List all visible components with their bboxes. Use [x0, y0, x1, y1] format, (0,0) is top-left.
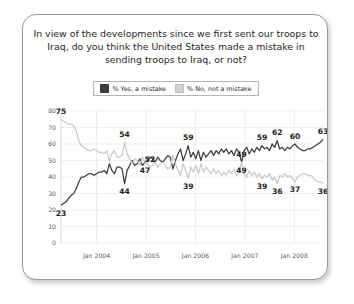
legend-swatch-yes-icon: [100, 84, 109, 93]
x-axis-tick-label: Jan 2004: [82, 252, 110, 260]
data-point-label: 60: [290, 132, 301, 141]
y-axis-tick-label: 50: [48, 157, 56, 164]
data-point-label: 62: [272, 128, 283, 137]
data-point-label: 37: [290, 185, 301, 194]
series-line-yes: [61, 139, 323, 205]
y-axis-tick-label: 70: [48, 124, 56, 131]
chart-title: In view of the developments since we fir…: [33, 27, 319, 67]
data-point-label: 59: [257, 133, 268, 142]
chart-legend: % Yes, a mistake % No, not a mistake: [93, 81, 259, 96]
legend-item-yes: % Yes, a mistake: [100, 84, 166, 93]
data-point-label: 52: [145, 155, 156, 164]
line-chart: 01020304050607080Jan 2004Jan 2005Jan 200…: [23, 103, 327, 279]
data-point-label: 63: [318, 127, 327, 136]
y-axis-tick-label: 0: [52, 239, 56, 246]
data-point-label: 47: [140, 166, 151, 175]
series-line-no: [61, 119, 323, 183]
data-point-label: 36: [318, 187, 327, 196]
legend-label-yes: % Yes, a mistake: [112, 85, 166, 93]
chart-card: In view of the developments since we fir…: [22, 14, 328, 280]
x-axis-tick-label: Jan 2007: [230, 252, 258, 260]
x-axis-tick-label: Jan 2006: [181, 252, 209, 260]
data-point-label: 49: [236, 150, 247, 159]
legend-swatch-no-icon: [175, 84, 184, 93]
x-axis-tick-label: Jan 2008: [280, 252, 308, 260]
y-axis-tick-label: 40: [48, 173, 56, 180]
legend-label-no: % No, not a mistake: [187, 85, 251, 93]
data-point-label: 23: [56, 209, 67, 218]
data-point-label: 54: [119, 130, 130, 139]
data-point-label: 44: [119, 187, 130, 196]
y-axis-tick-label: 30: [48, 190, 56, 197]
legend-item-no: % No, not a mistake: [175, 84, 251, 93]
data-point-label: 36: [272, 187, 283, 196]
data-point-label: 49: [236, 166, 247, 175]
y-axis-tick-label: 10: [48, 223, 56, 230]
x-axis-tick-label: Jan 2005: [131, 252, 159, 260]
data-point-label: 59: [183, 133, 194, 142]
chart-plot-area: 01020304050607080Jan 2004Jan 2005Jan 200…: [23, 103, 327, 279]
data-point-label: 39: [257, 182, 268, 191]
data-point-label: 75: [56, 107, 67, 116]
y-axis-tick-label: 60: [48, 140, 56, 147]
data-point-label: 39: [183, 182, 194, 191]
